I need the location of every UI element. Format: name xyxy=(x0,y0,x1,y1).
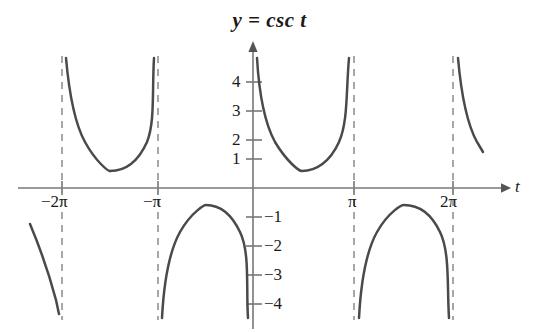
y-tick-label-neg-1: −1 xyxy=(264,207,282,227)
y-tick-label-neg-3: −3 xyxy=(264,265,282,285)
y-tick-label-1: 1 xyxy=(232,149,241,169)
branch-neg2pi-to-negpi-above-right xyxy=(110,58,154,171)
branch-negpi-to-zero-below xyxy=(162,205,248,318)
x-axis xyxy=(18,183,511,193)
branch-neg2pi-to-negpi-above xyxy=(66,58,110,171)
x-tick-label-pi: π xyxy=(348,192,357,212)
branch-zero-to-pi-above xyxy=(257,58,349,171)
branch-pi-to-2pi-below xyxy=(359,205,449,318)
branch-partial-left-below xyxy=(30,224,59,314)
y-tick-label-neg-2: −2 xyxy=(264,236,282,256)
y-tick-label-4: 4 xyxy=(232,72,241,92)
figure-csc-graph: y = csc t xyxy=(0,0,539,332)
x-tick-label-2pi: 2π xyxy=(440,192,457,212)
y-tick-label-3: 3 xyxy=(232,101,241,121)
branch-partial-right-above xyxy=(458,58,483,152)
y-axis-ticks xyxy=(246,82,262,304)
y-tick-label-2: 2 xyxy=(232,130,241,150)
x-axis-label: t xyxy=(515,177,520,197)
y-axis xyxy=(248,41,257,329)
x-tick-label-neg-2pi: −2π xyxy=(41,192,68,212)
x-tick-label-neg-pi: −π xyxy=(143,192,161,212)
y-tick-label-neg-4: −4 xyxy=(264,294,282,314)
